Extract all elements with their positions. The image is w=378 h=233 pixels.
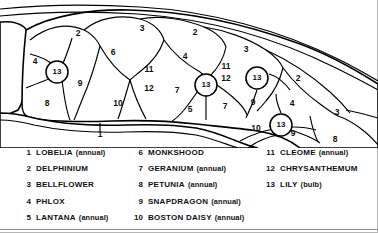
legend-item: 6 MONKSHOOD: [126, 145, 262, 161]
plan-label-b4: 2: [193, 27, 198, 37]
legend-plant-name: MONKSHOOD: [148, 145, 204, 161]
legend-plant-name: BOSTON DAISY: [148, 210, 212, 226]
plan-label-b8: 11: [145, 64, 154, 74]
legend-number: 13: [258, 177, 275, 193]
legend-number: 8: [126, 177, 143, 193]
legend-item: 10 BOSTON DAISY (annual): [126, 210, 262, 226]
legend-number: 9: [126, 194, 143, 210]
legend-plant-note: (annual): [79, 210, 109, 226]
plan-label-b15: 7: [175, 85, 180, 95]
plan-svg: 4 2 3 2 3 6 4 11 12 11 12 9 8 10 7 5 7 9…: [0, 0, 378, 148]
legend-number: 7: [126, 161, 143, 177]
plan-label-b19: 2: [296, 73, 301, 83]
plan-label-b6: 6: [111, 47, 116, 57]
legend-plant-note: (annual): [319, 145, 349, 161]
plan-label-b2: 2: [76, 28, 81, 38]
plan-label-b16: 5: [188, 104, 193, 114]
plan-label-b22: 10: [251, 123, 261, 133]
legend-plant-note: (annual): [215, 210, 245, 226]
legend-plant-name: LILY: [280, 177, 298, 193]
legend-item: 7 GERANIUM (annual): [126, 161, 262, 177]
legend-number: 10: [126, 210, 143, 226]
plan-label-b9: 12: [144, 83, 154, 93]
legend-item: 5 LANTANA (annual): [14, 210, 132, 226]
legend-number: 2: [14, 161, 31, 177]
plan-label-b24: 8: [333, 134, 338, 144]
plan-label-bulb-1: 13: [53, 67, 62, 76]
garden-plan-page: 4 2 3 2 3 6 4 11 12 11 12 9 8 10 7 5 7 9…: [0, 0, 378, 233]
plan-label-b10: 11: [222, 61, 231, 71]
plan-label-path: 1: [98, 129, 103, 139]
legend-bottom-divider: [0, 229, 378, 230]
plan-label-bulb-4: 13: [277, 120, 286, 129]
legend-plant-note: (bulb): [301, 177, 322, 193]
legend-plant-name: CHRYSANTHEMUM: [280, 161, 358, 177]
legend-item: 3 BELLFLOWER: [14, 177, 132, 193]
legend-item: 1 LOBELIA (annual): [14, 145, 132, 161]
plan-label-b14: 10: [113, 98, 123, 108]
plan-label-b20: 4: [290, 98, 295, 108]
legend-number: 12: [258, 161, 275, 177]
legend-number: 4: [14, 194, 31, 210]
legend-column-1: 1 LOBELIA (annual) 2 DELPHINIUM 3 BELLFL…: [14, 145, 132, 226]
legend-plant-name: GERANIUM: [148, 161, 194, 177]
plan-label-b12: 9: [78, 78, 83, 88]
legend-number: 3: [14, 177, 31, 193]
garden-plan-diagram: 4 2 3 2 3 6 4 11 12 11 12 9 8 10 7 5 7 9…: [0, 0, 378, 148]
plan-label-b1: 4: [33, 56, 38, 66]
plan-label-bulb-2: 13: [202, 80, 211, 89]
legend-number: 1: [14, 145, 31, 161]
legend-item: 11 CLEOME (annual): [258, 145, 376, 161]
legend-plant-name: PETUNIA: [148, 177, 185, 193]
legend-plant-name: LANTANA: [36, 210, 76, 226]
plan-label-b13: 8: [45, 98, 50, 108]
legend-column-2: 6 MONKSHOOD 7 GERANIUM (annual) 8 PETUNI…: [126, 145, 262, 226]
legend-number: 6: [126, 145, 143, 161]
legend-item: 13 LILY (bulb): [258, 177, 376, 193]
legend-number: 5: [14, 210, 31, 226]
plan-label-b5: 3: [244, 44, 249, 54]
legend-plant-name: DELPHINIUM: [36, 161, 88, 177]
legend-plant-note: (annual): [188, 177, 218, 193]
legend-number: 11: [258, 145, 275, 161]
plan-label-b17: 7: [223, 101, 228, 111]
legend-plant-note: (annual): [197, 161, 227, 177]
legend-plant-note: (annual): [76, 145, 106, 161]
legend-item: 9 SNAPDRAGON (annual): [126, 194, 262, 210]
legend-item: 2 DELPHINIUM: [14, 161, 132, 177]
plan-label-bulb-3: 13: [253, 73, 262, 82]
plan-label-b3: 3: [140, 23, 145, 33]
legend-plant-name: SNAPDRAGON: [148, 194, 208, 210]
plan-label-b23: 9: [291, 128, 296, 138]
plan-label-b11: 12: [221, 73, 231, 83]
legend-item: 4 PHLOX: [14, 194, 132, 210]
plant-key-legend: 1 LOBELIA (annual) 2 DELPHINIUM 3 BELLFL…: [0, 145, 378, 231]
legend-plant-name: PHLOX: [36, 194, 65, 210]
plan-label-b7: 4: [183, 51, 188, 61]
legend-item: 8 PETUNIA (annual): [126, 177, 262, 193]
legend-plant-name: CLEOME: [280, 145, 316, 161]
legend-item: 12 CHRYSANTHEMUM: [258, 161, 376, 177]
legend-plant-name: LOBELIA: [36, 145, 73, 161]
plan-label-b21: 3: [335, 107, 340, 117]
legend-plant-name: BELLFLOWER: [36, 177, 94, 193]
plan-label-b18: 9: [251, 97, 256, 107]
legend-plant-note: (annual): [211, 194, 241, 210]
legend-column-3: 11 CLEOME (annual) 12 CHRYSANTHEMUM 13 L…: [258, 145, 376, 194]
